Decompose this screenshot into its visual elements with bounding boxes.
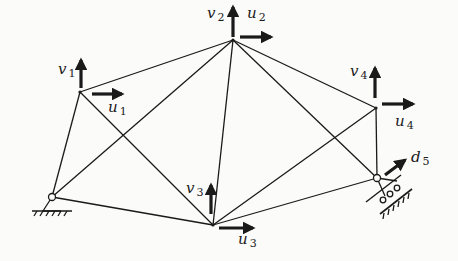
label-d5: d5: [411, 150, 430, 167]
label-u1: u1: [108, 100, 127, 117]
member-4-5: [376, 108, 377, 178]
label-u4: u4: [395, 114, 414, 131]
truss-diagram: [0, 0, 458, 261]
member-3-4: [213, 108, 376, 225]
member-2-5: [233, 40, 377, 178]
joints: [78, 38, 377, 226]
inclined-roller-support: [366, 175, 412, 220]
label-v4: v4: [350, 64, 367, 81]
arrow-d5-icon: [385, 160, 405, 175]
member-1-2: [80, 40, 233, 92]
member-2-3: [213, 40, 233, 225]
label-v2: v2: [207, 6, 224, 23]
truss-members: [52, 40, 377, 225]
member-3-5: [213, 178, 377, 225]
pin-support: [32, 194, 72, 217]
member-A-2: [52, 40, 233, 197]
label-v3: v3: [186, 181, 203, 198]
member-A-1: [52, 92, 80, 197]
label-u2: u2: [247, 6, 266, 23]
label-u3: u3: [238, 232, 257, 249]
label-v1: v1: [58, 62, 75, 79]
